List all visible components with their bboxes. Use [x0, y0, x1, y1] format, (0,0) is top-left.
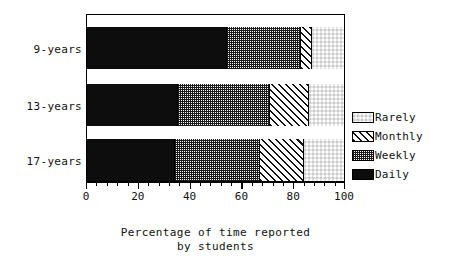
- bar-segment-monthly: [269, 84, 308, 126]
- x-tick-label-40: 40: [183, 190, 196, 203]
- legend-item-rarely: Rarely: [352, 108, 456, 127]
- bar-row-13-years: [87, 84, 344, 126]
- bar-segment-weekly: [174, 139, 259, 181]
- legend-item-daily: Daily: [352, 165, 456, 184]
- bar-segment-daily: [87, 84, 177, 126]
- legend-swatch-rarely-icon: [352, 112, 374, 123]
- x-tick-major-40: [190, 182, 191, 189]
- bar-segment-monthly: [300, 27, 310, 69]
- x-tick-minor: [283, 182, 284, 186]
- bar-segment-rarely: [308, 84, 344, 126]
- x-axis-title: Percentage of time reported by students: [86, 226, 345, 254]
- x-tick-major-100: [344, 182, 345, 189]
- legend-swatch-monthly-icon: [352, 131, 374, 142]
- x-tick-minor: [273, 182, 274, 186]
- x-tick-minor: [117, 182, 118, 186]
- x-tick-minor: [179, 182, 180, 186]
- y-axis-label-9-years: 9-years: [34, 43, 82, 56]
- legend-label-weekly: Weekly: [375, 149, 416, 162]
- x-tick-label-0: 0: [83, 190, 90, 203]
- legend-label-rarely: Rarely: [375, 111, 416, 124]
- x-tick-minor: [262, 182, 263, 186]
- bar-segment-rarely: [311, 27, 344, 69]
- legend-swatch-daily-icon: [352, 169, 374, 180]
- x-tick-minor: [304, 182, 305, 186]
- x-tick-major-60: [241, 182, 242, 189]
- x-tick-label-20: 20: [131, 190, 144, 203]
- x-tick-major-80: [293, 182, 294, 189]
- x-tick-label-60: 60: [235, 190, 248, 203]
- legend-label-monthly: Monthly: [375, 130, 423, 143]
- x-tick-minor: [210, 182, 211, 186]
- x-tick-minor: [221, 182, 222, 186]
- y-axis-label-13-years: 13-years: [27, 100, 82, 113]
- y-axis-label-17-years: 17-years: [27, 155, 82, 168]
- bar-row-9-years: [87, 27, 344, 69]
- x-tick-label-80: 80: [287, 190, 300, 203]
- x-tick-minor: [96, 182, 97, 186]
- x-tick-major-0: [86, 182, 87, 189]
- stacked-bar-chart: 9-years 13-years 17-years: [0, 0, 459, 271]
- x-tick-minor: [107, 182, 108, 186]
- x-tick-minor: [252, 182, 253, 186]
- x-tick-minor: [231, 182, 232, 186]
- bar-segment-rarely: [303, 139, 344, 181]
- chart-legend: Rarely Monthly Weekly Daily: [352, 108, 456, 184]
- bar-segment-daily: [87, 139, 174, 181]
- x-axis-title-line-1: Percentage of time reported: [86, 226, 345, 240]
- legend-item-monthly: Monthly: [352, 127, 456, 146]
- bar-segment-daily: [87, 27, 226, 69]
- x-tick-label-100: 100: [334, 190, 354, 203]
- x-tick-minor: [335, 182, 336, 186]
- legend-swatch-weekly-icon: [352, 150, 374, 161]
- bar-segment-weekly: [226, 27, 301, 69]
- legend-label-daily: Daily: [375, 168, 409, 181]
- x-tick-major-20: [138, 182, 139, 189]
- bar-segment-monthly: [259, 139, 303, 181]
- x-axis-title-line-2: by students: [86, 240, 345, 254]
- x-tick-minor: [169, 182, 170, 186]
- plot-area: [86, 14, 345, 182]
- x-axis-line: [86, 182, 345, 183]
- bar-segment-weekly: [177, 84, 270, 126]
- x-tick-minor: [159, 182, 160, 186]
- legend-item-weekly: Weekly: [352, 146, 456, 165]
- x-tick-minor: [148, 182, 149, 186]
- bar-row-17-years: [87, 139, 344, 181]
- x-tick-minor: [200, 182, 201, 186]
- x-tick-minor: [324, 182, 325, 186]
- x-tick-minor: [128, 182, 129, 186]
- x-tick-minor: [314, 182, 315, 186]
